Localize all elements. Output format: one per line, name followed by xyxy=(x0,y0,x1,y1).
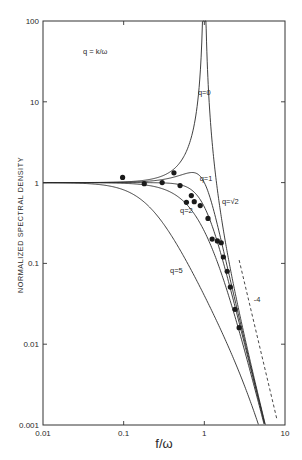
y-tick-label: 0.1 xyxy=(28,259,40,268)
y-tick-label: 10 xyxy=(30,98,39,107)
data-point xyxy=(228,284,233,289)
x-axis-title: f/ω xyxy=(155,436,172,451)
curve-q0-right xyxy=(205,21,265,425)
spectral-density-chart: -4 q=0q=1q=√2q=2q=5 0.010.1110 1001010.1… xyxy=(0,0,302,460)
data-point xyxy=(237,325,242,330)
curve-label: q=5 xyxy=(170,266,183,275)
curve-q=1 xyxy=(43,173,265,424)
x-axis: 0.010.1110 xyxy=(35,21,290,438)
data-point xyxy=(160,180,165,185)
curve-label: q=0 xyxy=(198,88,211,97)
y-tick-label: 0.01 xyxy=(23,340,39,349)
data-point xyxy=(221,254,226,259)
curve-label: q=2 xyxy=(180,206,193,215)
x-tick-label: 10 xyxy=(281,429,290,438)
slope-reference-label: -4 xyxy=(254,295,261,304)
y-tick-label: 100 xyxy=(26,17,40,26)
data-point xyxy=(184,200,189,205)
x-tick-label: 0.01 xyxy=(35,429,51,438)
data-point xyxy=(205,216,210,221)
y-axis-title: NORMALIZED SPECTRAL DENSITY xyxy=(16,157,25,293)
data-point xyxy=(171,170,176,175)
y-axis: 1001010.10.010.001 xyxy=(19,17,285,430)
y-tick-label: 0.001 xyxy=(19,421,40,430)
curve-label: q=1 xyxy=(200,174,213,183)
curve-q=2 xyxy=(43,183,264,424)
data-point xyxy=(225,269,230,274)
data-point xyxy=(142,181,147,186)
curve-q0-left xyxy=(43,21,204,183)
y-tick-label: 1 xyxy=(35,179,40,188)
x-tick-label: 1 xyxy=(202,429,207,438)
model-curves xyxy=(43,21,265,425)
data-point xyxy=(120,175,125,180)
data-point xyxy=(198,203,203,208)
parameter-annotation: q = k/ω xyxy=(83,47,108,56)
data-point xyxy=(177,183,182,188)
curve-labels: q=0q=1q=√2q=2q=5 xyxy=(170,88,239,275)
curve-label: q=√2 xyxy=(222,197,239,206)
data-point xyxy=(189,193,194,198)
data-point xyxy=(210,236,215,241)
data-point xyxy=(232,307,237,312)
data-point xyxy=(219,240,224,245)
x-tick-label: 0.1 xyxy=(118,429,130,438)
data-point xyxy=(192,199,197,204)
curve-q=5 xyxy=(43,183,258,425)
